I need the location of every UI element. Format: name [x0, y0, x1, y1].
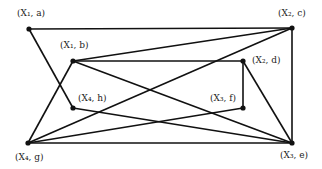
node-label-f: (X₃, f) — [210, 93, 236, 103]
edge-d-e — [243, 61, 292, 143]
node-label-b: (X₁, b) — [60, 40, 89, 50]
edge-b-g — [28, 61, 73, 143]
node-label-g: (X₄, g) — [15, 152, 44, 162]
node-h — [70, 105, 75, 110]
node-label-h: (X₄, h) — [78, 93, 107, 103]
node-label-e: (X₃, e) — [280, 150, 308, 160]
graph-diagram: (X₁, a)(X₂, c)(X₁, b)(X₂, d)(X₄, h)(X₃, … — [0, 0, 322, 169]
node-label-c: (X₂, c) — [278, 8, 306, 18]
node-label-a: (X₁, a) — [17, 8, 45, 18]
node-g — [25, 140, 30, 145]
node-c — [289, 25, 294, 30]
node-a — [26, 26, 31, 31]
node-d — [240, 58, 245, 63]
edge-a-c — [29, 28, 292, 29]
node-e — [289, 140, 294, 145]
edge-h-e — [73, 108, 292, 143]
node-f — [240, 105, 245, 110]
edge-f-g — [28, 108, 243, 143]
node-b — [70, 58, 75, 63]
node-label-d: (X₂, d) — [252, 55, 281, 65]
